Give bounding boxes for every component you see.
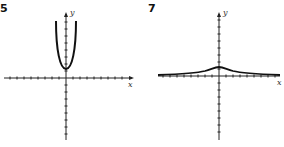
x-axis-label: x [128, 80, 133, 89]
graph-5: 5 y x [0, 0, 142, 147]
y-axis-label: y [70, 8, 75, 17]
graph-7-plot [142, 0, 284, 147]
x-axis-label: x [277, 78, 282, 87]
y-axis-label: y [223, 8, 228, 17]
graph-7: 7 y x [142, 0, 284, 147]
graph-5-plot [0, 0, 142, 147]
